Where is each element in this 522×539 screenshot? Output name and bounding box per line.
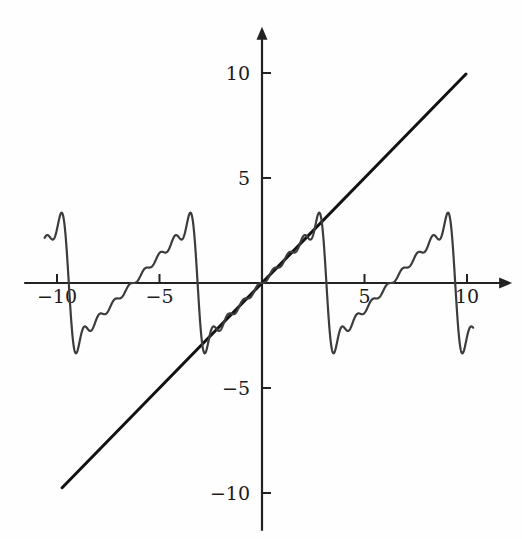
x-tick-label: −5: [145, 285, 173, 307]
chart-figure: −10−5510 105−5−10: [0, 0, 522, 539]
identity-line-path: [62, 74, 466, 488]
y-axis-arrowhead: [257, 27, 268, 40]
x-axis-arrowhead: [499, 278, 512, 289]
plot-canvas: −10−5510 105−5−10: [0, 0, 522, 539]
x-axis-ticks: −10−5510: [37, 274, 479, 307]
y-tick-label: 5: [238, 167, 250, 189]
y-tick-label: −5: [222, 377, 250, 399]
y-tick-label: −10: [210, 482, 250, 504]
y-tick-label: 10: [226, 62, 250, 84]
x-tick-label: 10: [455, 285, 479, 307]
data-series-group: [45, 74, 473, 488]
